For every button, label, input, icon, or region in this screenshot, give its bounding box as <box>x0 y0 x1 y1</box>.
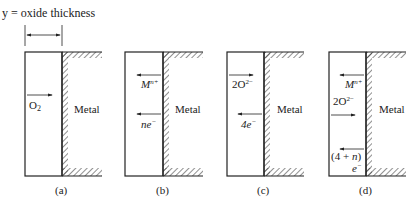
panel-d: Mn+ 2O2− (4 + n) e− Metal (d) <box>329 52 406 197</box>
panel-a: O2 Metal (a) <box>25 52 102 197</box>
panel-b: Mn+ ne− Metal (b) <box>125 52 203 197</box>
svg-text:e−: e− <box>352 162 362 174</box>
panel-caption-c: (c) <box>257 184 270 197</box>
panel-caption-b: (b) <box>156 184 169 197</box>
metal-label: Metal <box>277 103 303 115</box>
panel-caption-d: (d) <box>359 184 372 197</box>
thickness-dimension <box>25 25 62 46</box>
svg-text:2O2−: 2O2− <box>232 78 253 90</box>
metal-label: Metal <box>379 103 405 115</box>
panel-c: 2O2− 4e− Metal (c) <box>227 52 304 197</box>
svg-text:4e−: 4e− <box>241 118 256 130</box>
metal-label: Metal <box>74 103 100 115</box>
oxidation-diagram: y = oxide thickness O2 Metal (a) Mn+ ne−… <box>0 0 416 210</box>
svg-text:ne−: ne− <box>141 118 156 130</box>
panel-caption-a: (a) <box>55 184 68 197</box>
arrow-label-o2: O <box>29 99 37 111</box>
oxide-thickness-title: y = oxide thickness <box>2 6 95 20</box>
svg-text:Mn+: Mn+ <box>344 78 363 90</box>
metal-label: Metal <box>175 103 201 115</box>
svg-text:Mn+: Mn+ <box>140 78 159 90</box>
svg-text:2O2−: 2O2− <box>333 95 354 107</box>
svg-text:O2: O2 <box>29 99 41 113</box>
